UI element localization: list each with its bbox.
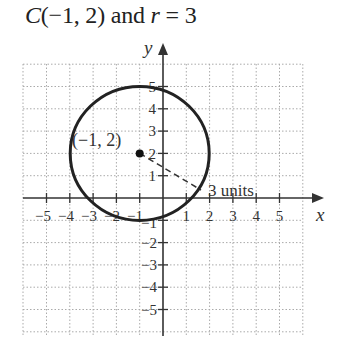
x-tick-label: −4: [58, 208, 74, 224]
x-axis-label: x: [315, 204, 325, 225]
center-point: [136, 149, 144, 157]
x-axis-arrow-icon: [312, 193, 324, 203]
x-tick-label: 2: [206, 208, 214, 224]
y-tick-label: −2: [141, 235, 157, 251]
y-tick-label: −4: [141, 279, 157, 295]
center-point-label: (−1, 2): [72, 130, 121, 151]
x-tick-label: 1: [183, 208, 191, 224]
x-tick-label: 4: [252, 208, 260, 224]
y-tick-label: −3: [141, 257, 157, 273]
y-tick-label: 3: [149, 123, 157, 139]
y-axis-arrow-icon: [158, 43, 168, 55]
x-tick-label: −3: [81, 208, 97, 224]
y-tick-label: 1: [149, 168, 157, 184]
y-tick-label: 4: [149, 101, 157, 117]
y-tick-label: −5: [141, 302, 157, 318]
x-tick-label: −5: [35, 208, 51, 224]
x-tick-label: 5: [276, 208, 284, 224]
y-axis-label: y: [142, 37, 153, 58]
coordinate-plane: −5 −4 −3 −2 −1 1 2 3 4 5 5 4 3 2 1 −1 −2…: [0, 0, 342, 347]
y-tick-label: −1: [141, 215, 157, 231]
x-tick-labels: −5 −4 −3 −2 −1 1 2 3 4 5: [35, 208, 283, 224]
x-tick-label: 3: [229, 208, 237, 224]
radius-label: 3 units: [208, 181, 254, 200]
